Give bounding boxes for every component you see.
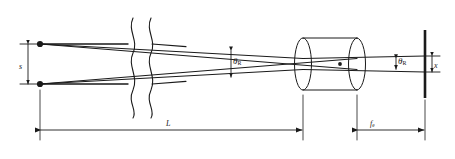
lens-left-ellipse <box>295 38 312 90</box>
ray-exit-to-screen-bottom <box>303 70 425 73</box>
label-image-size-x: x <box>434 62 438 70</box>
diagram-canvas <box>0 0 455 159</box>
wavy-break-line-right <box>149 18 153 118</box>
label-angle-theta-right: θR <box>398 57 406 67</box>
lens-right-ellipse-back <box>349 38 358 90</box>
label-angle-theta-left: θR <box>233 57 241 67</box>
lens-right-ellipse-front <box>357 38 366 90</box>
wavy-break-line-left <box>131 18 135 118</box>
ray-crossover-point <box>338 62 342 66</box>
label-separation-s: s <box>19 63 22 71</box>
label-angle-theta-right-subscript: R <box>402 60 406 66</box>
label-focal-length-fe: fe <box>370 120 375 128</box>
ray-post-break-top <box>152 44 186 47</box>
point-source-bottom-dot <box>37 81 43 87</box>
label-distance-L: L <box>166 120 170 128</box>
ray-exit-to-screen-top <box>303 56 425 59</box>
optical-ray-diagram: s θR θR x L fe <box>0 0 455 159</box>
ray-post-break-bottom <box>152 81 186 84</box>
label-focal-length-subscript: e <box>372 122 374 128</box>
point-source-top-dot <box>37 41 43 47</box>
ray-bottom-lower <box>40 70 303 85</box>
ray-top-upper <box>40 44 303 59</box>
label-angle-theta-left-subscript: R <box>237 60 241 66</box>
